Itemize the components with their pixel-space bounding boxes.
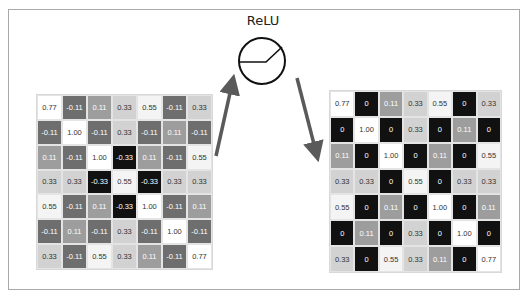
matrix-cell: 0.11 (87, 95, 112, 120)
matrix-cell: 0.33 (112, 95, 137, 120)
matrix-cell: 0.77 (37, 95, 62, 120)
matrix-cell: 0 (354, 194, 378, 220)
matrix-cell: -0.33 (87, 170, 112, 195)
matrix-cell: 0.11 (37, 145, 62, 170)
matrix-cell: 0.33 (62, 170, 87, 195)
matrix-cell: 0.33 (37, 170, 62, 195)
matrix-cell: 0.33 (403, 220, 427, 246)
matrix-cell: 0 (379, 169, 403, 195)
matrix-cell: -0.33 (137, 170, 162, 195)
matrix-cell: 0.11 (477, 194, 501, 220)
matrix-cell: 1.00 (137, 194, 162, 219)
matrix-cell: 0 (330, 220, 354, 246)
matrix-cell: 0.11 (379, 91, 403, 117)
matrix-cell: 0 (428, 220, 452, 246)
matrix-cell: -0.11 (162, 194, 187, 219)
matrix-cell: 0.11 (137, 244, 162, 269)
matrix-cell: 0.33 (37, 244, 62, 269)
matrix-cell: -0.11 (137, 120, 162, 145)
matrix-cell: 0.55 (403, 169, 427, 195)
matrix-cell: -0.11 (162, 145, 187, 170)
matrix-cell: -0.11 (62, 95, 87, 120)
matrix-cell: 0 (428, 169, 452, 195)
matrix-cell: 0 (354, 91, 378, 117)
matrix-cell: 0 (452, 143, 476, 169)
matrix-cell: 0.55 (37, 194, 62, 219)
matrix-cell: 0 (330, 117, 354, 143)
matrix-cell: 0.33 (477, 91, 501, 117)
matrix-cell: 0.11 (162, 120, 187, 145)
matrix-cell: 0.33 (112, 219, 137, 244)
matrix-cell: 0.55 (87, 244, 112, 269)
input-matrix: 0.77-0.110.110.330.55-0.110.33-0.111.00-… (36, 94, 213, 270)
matrix-cell: -0.11 (137, 219, 162, 244)
matrix-cell: 0 (403, 143, 427, 169)
matrix-cell: 1.00 (354, 117, 378, 143)
relu-function-icon (239, 38, 285, 84)
matrix-cell: 0.33 (330, 169, 354, 195)
matrix-cell: -0.11 (187, 120, 212, 145)
matrix-cell: -0.11 (37, 219, 62, 244)
matrix-cell: 0.33 (112, 120, 137, 145)
matrix-cell: 0.11 (428, 246, 452, 272)
matrix-cell: 0.33 (187, 170, 212, 195)
matrix-cell: 0.33 (354, 169, 378, 195)
matrix-cell: 0.33 (162, 170, 187, 195)
matrix-cell: 0 (452, 194, 476, 220)
matrix-cell: 0.77 (187, 244, 212, 269)
matrix-cell: 0 (477, 117, 501, 143)
matrix-cell: 0.11 (187, 194, 212, 219)
matrix-cell: -0.11 (162, 244, 187, 269)
matrix-cell: 0 (379, 220, 403, 246)
matrix-cell: 0.11 (62, 219, 87, 244)
matrix-cell: 1.00 (162, 219, 187, 244)
matrix-cell: -0.11 (37, 120, 62, 145)
matrix-cell: 0.55 (187, 145, 212, 170)
matrix-cell: 0.55 (379, 246, 403, 272)
matrix-cell: 0 (428, 117, 452, 143)
matrix-cell: 0 (379, 117, 403, 143)
matrix-cell: -0.33 (112, 145, 137, 170)
matrix-cell: 0.55 (112, 170, 137, 195)
matrix-cell: 0.11 (379, 194, 403, 220)
matrix-cell: 0 (452, 91, 476, 117)
output-matrix: 0.7700.110.330.5500.3301.0000.3300.1100.… (329, 90, 502, 273)
matrix-cell: 0.33 (112, 244, 137, 269)
matrix-cell: 0.77 (330, 91, 354, 117)
matrix-cell: 0.11 (330, 143, 354, 169)
matrix-cell: 0 (354, 143, 378, 169)
matrix-cell: 0.55 (330, 194, 354, 220)
matrix-cell: 0.55 (428, 91, 452, 117)
matrix-cell: 0 (354, 246, 378, 272)
matrix-cell: -0.11 (162, 95, 187, 120)
matrix-cell: 0 (403, 194, 427, 220)
matrix-cell: 1.00 (379, 143, 403, 169)
matrix-cell: 0.33 (403, 246, 427, 272)
matrix-cell: 0 (452, 246, 476, 272)
matrix-cell: 1.00 (452, 220, 476, 246)
matrix-cell: -0.11 (62, 145, 87, 170)
matrix-cell: 0.55 (137, 95, 162, 120)
matrix-cell: -0.11 (87, 120, 112, 145)
matrix-cell: 0.33 (187, 95, 212, 120)
matrix-cell: -0.11 (62, 194, 87, 219)
matrix-cell: 0.33 (403, 91, 427, 117)
matrix-cell: 0.11 (137, 145, 162, 170)
matrix-cell: -0.11 (187, 219, 212, 244)
matrix-cell: 0.33 (477, 169, 501, 195)
matrix-cell: 0.77 (477, 246, 501, 272)
arrow-up-icon (216, 84, 232, 156)
matrix-cell: -0.11 (87, 219, 112, 244)
matrix-cell: -0.33 (112, 194, 137, 219)
matrix-cell: 0.11 (428, 143, 452, 169)
matrix-cell: 0 (477, 220, 501, 246)
matrix-cell: 0.11 (452, 117, 476, 143)
matrix-cell: 0.33 (330, 246, 354, 272)
matrix-cell: 0.33 (403, 117, 427, 143)
matrix-cell: 0.33 (452, 169, 476, 195)
matrix-cell: 1.00 (62, 120, 87, 145)
matrix-cell: -0.11 (62, 244, 87, 269)
matrix-cell: 1.00 (87, 145, 112, 170)
matrix-cell: 1.00 (428, 194, 452, 220)
matrix-cell: 0.11 (354, 220, 378, 246)
